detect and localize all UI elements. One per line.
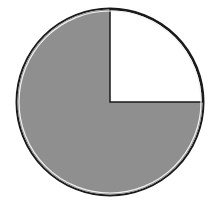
pie-chart: [0, 0, 216, 213]
